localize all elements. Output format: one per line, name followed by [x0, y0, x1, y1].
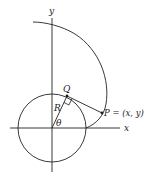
point-q [66, 95, 69, 98]
r-label: R [53, 103, 61, 113]
involute-diagram: y x Q R θ P = (x, y) [0, 0, 153, 177]
theta-label: θ [56, 118, 62, 128]
p-label: P = (x, y) [103, 108, 144, 118]
tangent-line [67, 96, 102, 113]
x-axis-label: x [124, 123, 129, 133]
q-label: Q [63, 84, 71, 94]
involute-curve [33, 22, 107, 128]
y-axis-label: y [48, 6, 55, 16]
point-p [101, 112, 104, 115]
